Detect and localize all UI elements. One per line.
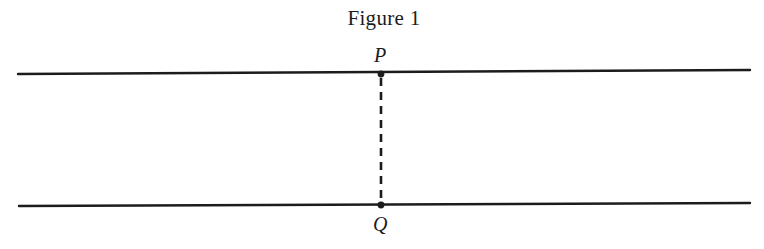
point-q	[378, 202, 385, 209]
point-p-label: P	[374, 45, 386, 65]
point-q-label: Q	[373, 214, 387, 234]
point-p	[378, 71, 385, 78]
parallel-lines-diagram	[0, 0, 764, 249]
bottom-line	[19, 203, 750, 206]
